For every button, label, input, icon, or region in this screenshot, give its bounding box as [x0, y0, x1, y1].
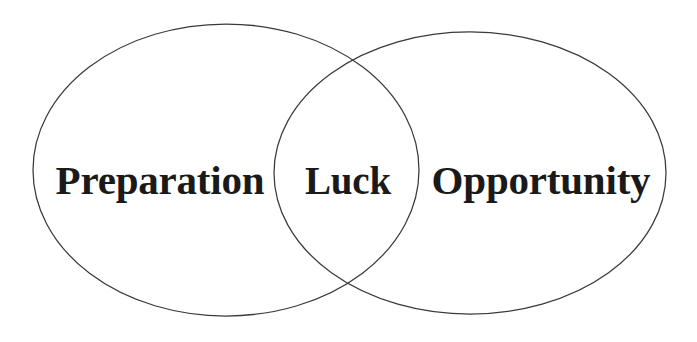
set-label-preparation: Preparation [56, 160, 265, 201]
set-label-opportunity: Opportunity [432, 160, 651, 201]
venn-diagram: Preparation Luck Opportunity [0, 0, 697, 342]
intersection-label-luck: Luck [305, 161, 391, 200]
